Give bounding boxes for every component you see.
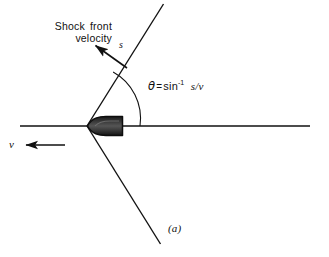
arcsin-text: sin: [163, 80, 178, 92]
lower-shock-front-line: [87, 126, 161, 244]
projectile-speed-symbol-label: v: [9, 138, 14, 151]
arcsin-argument: s/v: [191, 80, 204, 92]
shock-speed-symbol-label: s: [119, 39, 123, 51]
panel-label: (a): [168, 222, 181, 235]
shock-front-figure: Shock front velocity s θ=sin-1 s/v v (a): [0, 0, 329, 257]
shock-front-velocity-label: Shock front velocity: [38, 20, 112, 45]
angle-equation-label: θ=sin-1 s/v: [148, 79, 204, 94]
arcsin-exponent: -1: [178, 79, 184, 86]
projectile-body: [88, 117, 123, 136]
